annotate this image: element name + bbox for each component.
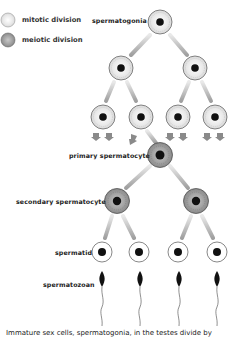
spermatozoan-2 [137,271,142,326]
spermatozoan-3 [176,271,181,326]
spermatogenesis-diagram [0,0,237,338]
cell-mitotic-row3-4 [203,105,227,129]
label-primary-spermatocyte: primary spermatocyte [69,152,150,159]
spermatozoan-1 [99,271,104,326]
cell-secondary-spermatocyte-right [184,189,209,214]
cell-mitotic-row3-3 [166,105,190,129]
cell-spermatogonia [148,10,172,34]
cell-primary-spermatocyte [148,143,173,168]
cell-spermatid-3 [168,242,188,262]
label-spermatozoan: spermatozoan [43,281,95,288]
legend-meiotic-swatch [1,33,15,47]
legend-mitotic-label: mitotic division [22,16,81,24]
cell-mitotic-row2-right [183,56,207,80]
cell-mitotic-row2-left [109,56,133,80]
cell-mitotic-row3-1 [91,105,115,129]
label-spermatogonia: spermatogonia [92,17,147,24]
legend-meiotic-label: meiotic division [22,36,83,44]
cell-spermatid-4 [207,242,227,262]
cell-mitotic-row3-2 [129,105,153,129]
cell-spermatid-2 [129,242,149,262]
caption: Immature sex cells, spermatogonia, in th… [6,329,212,337]
label-secondary-spermatocyte: secondary spermatocyte [16,198,106,205]
legend-mitotic-swatch [1,13,15,27]
spermatozoan-4 [214,271,219,326]
cell-secondary-spermatocyte-left [105,189,130,214]
cell-spermatid-1 [92,242,112,262]
label-spermatid: spermatid [55,249,92,256]
